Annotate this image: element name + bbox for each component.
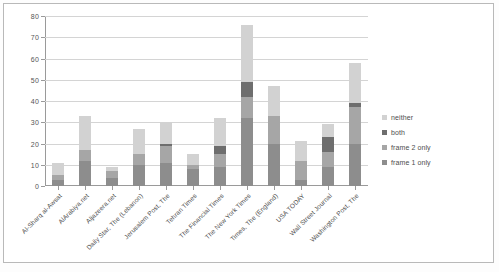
legend-label: both <box>391 129 405 136</box>
bar-segment-frame-1-only[interactable] <box>349 144 361 187</box>
bar-segment-neither[interactable] <box>187 154 199 165</box>
bar-segment-frame-1-only[interactable] <box>241 118 253 186</box>
y-axis-tick-label: 60 <box>31 55 39 62</box>
legend-label: frame 2 only <box>391 144 431 151</box>
y-axis-tick-label: 10 <box>31 161 39 168</box>
bar-segment-neither[interactable] <box>214 118 226 146</box>
bar-segment-frame-2-only[interactable] <box>322 152 334 167</box>
bar-segment-frame-1-only[interactable] <box>187 169 199 186</box>
bar-segment-neither[interactable] <box>295 141 307 160</box>
bar-segment-neither[interactable] <box>52 163 64 176</box>
bar-segment-frame-2-only[interactable] <box>295 161 307 180</box>
bar-slot[interactable] <box>314 16 341 186</box>
stacked-bar[interactable] <box>268 86 280 186</box>
bar-segment-frame-2-only[interactable] <box>133 154 145 165</box>
stacked-bar[interactable] <box>187 154 199 186</box>
legend-item[interactable]: frame 2 only <box>382 140 492 155</box>
stacked-bar[interactable] <box>295 141 307 186</box>
bar-slot[interactable] <box>207 16 234 186</box>
stacked-bar[interactable] <box>349 63 361 186</box>
bar-slot[interactable] <box>99 16 126 186</box>
y-axis-tick <box>41 186 45 187</box>
bar-segment-frame-1-only[interactable] <box>268 144 280 187</box>
bar-segment-frame-1-only[interactable] <box>133 165 145 186</box>
legend-swatch-icon <box>382 160 387 165</box>
legend-swatch-icon <box>382 115 387 120</box>
bars-container <box>45 16 368 186</box>
bar-segment-neither[interactable] <box>241 25 253 82</box>
stacked-bar[interactable] <box>322 124 334 186</box>
bar-segment-neither[interactable] <box>160 122 172 143</box>
bar-slot[interactable] <box>45 16 72 186</box>
chart-figure: 01020304050607080 Al-Sharq al-AwsatAlAra… <box>0 0 499 272</box>
bar-slot[interactable] <box>260 16 287 186</box>
legend: neitherbothframe 2 onlyframe 1 only <box>382 110 492 170</box>
stacked-bar[interactable] <box>241 25 253 187</box>
bar-segment-frame-1-only[interactable] <box>214 167 226 186</box>
y-axis-tick-label: 30 <box>31 119 39 126</box>
x-label-slot: Al-Sharq al-Awsat <box>45 190 72 268</box>
bar-slot[interactable] <box>287 16 314 186</box>
x-label-slot: AlArabiya.net <box>72 190 99 268</box>
legend-label: frame 1 only <box>391 159 431 166</box>
bar-slot[interactable] <box>153 16 180 186</box>
stacked-bar[interactable] <box>214 118 226 186</box>
bar-segment-neither[interactable] <box>349 63 361 103</box>
legend-item[interactable]: neither <box>382 110 492 125</box>
bar-segment-neither[interactable] <box>322 124 334 137</box>
legend-item[interactable]: both <box>382 125 492 140</box>
plot-area: 01020304050607080 <box>45 16 368 186</box>
bar-segment-neither[interactable] <box>133 129 145 155</box>
stacked-bar[interactable] <box>79 116 91 186</box>
y-axis-tick-label: 0 <box>35 183 39 190</box>
bar-slot[interactable] <box>126 16 153 186</box>
bar-segment-frame-2-only[interactable] <box>214 154 226 167</box>
bar-segment-frame-2-only[interactable] <box>349 107 361 143</box>
legend-label: neither <box>391 114 413 121</box>
bar-segment-frame-2-only[interactable] <box>79 150 91 161</box>
y-axis-tick-label: 70 <box>31 34 39 41</box>
bar-segment-both[interactable] <box>241 82 253 97</box>
stacked-bar[interactable] <box>52 163 64 186</box>
bar-segment-neither[interactable] <box>268 86 280 116</box>
legend-item[interactable]: frame 1 only <box>382 155 492 170</box>
legend-swatch-icon <box>382 145 387 150</box>
figure-border: 01020304050607080 Al-Sharq al-AwsatAlAra… <box>3 3 494 263</box>
bar-slot[interactable] <box>233 16 260 186</box>
bar-slot[interactable] <box>72 16 99 186</box>
x-axis-category-label: Al-Sharq al-Awsat <box>21 192 64 235</box>
bar-slot[interactable] <box>341 16 368 186</box>
stacked-bar[interactable] <box>160 122 172 186</box>
bar-segment-frame-1-only[interactable] <box>79 161 91 187</box>
x-label-slot: Washington Post, The <box>341 190 368 268</box>
bar-segment-both[interactable] <box>214 146 226 155</box>
x-axis-labels: Al-Sharq al-AwsatAlArabiya.netAljazeera.… <box>45 190 368 268</box>
bar-segment-frame-2-only[interactable] <box>241 97 253 118</box>
y-axis-tick-label: 80 <box>31 13 39 20</box>
bar-segment-frame-2-only[interactable] <box>268 116 280 144</box>
bar-segment-frame-1-only[interactable] <box>160 163 172 186</box>
y-axis-tick-label: 50 <box>31 76 39 83</box>
bar-segment-frame-1-only[interactable] <box>322 167 334 186</box>
bar-segment-frame-2-only[interactable] <box>160 146 172 163</box>
y-axis-tick-label: 20 <box>31 140 39 147</box>
bar-slot[interactable] <box>180 16 207 186</box>
bar-segment-both[interactable] <box>322 137 334 152</box>
x-label-slot: Times, The (England) <box>260 190 287 268</box>
bar-segment-neither[interactable] <box>79 116 91 150</box>
legend-swatch-icon <box>382 130 387 135</box>
bar-segment-frame-1-only[interactable] <box>106 178 118 187</box>
y-axis-tick-label: 40 <box>31 98 39 105</box>
stacked-bar[interactable] <box>106 167 118 186</box>
x-label-slot: Jerusalem Post, The <box>153 190 180 268</box>
stacked-bar[interactable] <box>133 129 145 186</box>
